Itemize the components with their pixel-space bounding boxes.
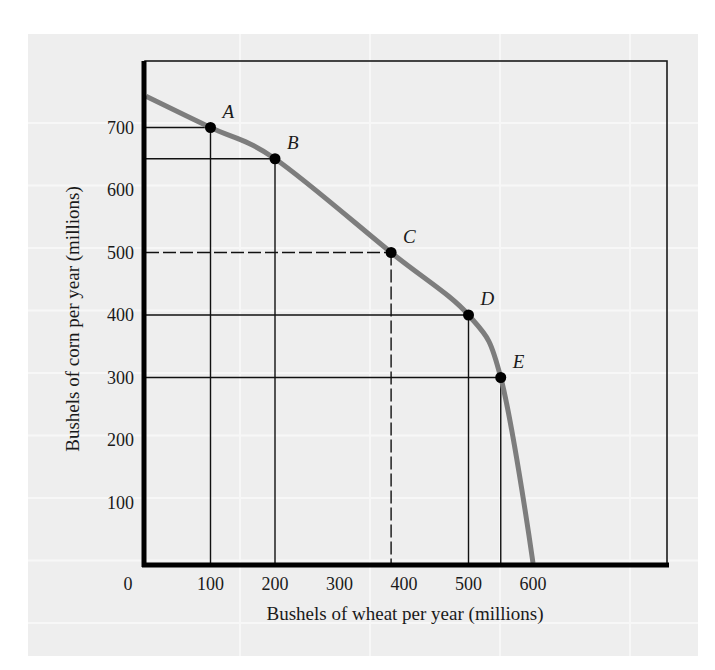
x-tick-400: 400 [391, 574, 418, 594]
x-tick-0: 0 [124, 574, 133, 594]
y-axis-title: Bushels of corn per year (millions) [62, 186, 84, 451]
point-c [386, 247, 397, 258]
y-tick-100: 100 [107, 493, 134, 513]
y-tick-600: 600 [107, 180, 134, 200]
ppf-figure: ABCDE 0100200300400500600 10020030040050… [0, 0, 715, 670]
point-e [495, 372, 506, 383]
y-tick-200: 200 [107, 430, 134, 450]
x-tick-600: 600 [520, 574, 547, 594]
y-tick-500: 500 [107, 243, 134, 263]
x-axis-title: Bushels of wheat per year (millions) [266, 603, 543, 625]
point-d [463, 310, 474, 321]
point-label-c: C [403, 226, 416, 247]
x-tick-200: 200 [262, 574, 289, 594]
x-tick-100: 100 [197, 574, 224, 594]
x-tick-500: 500 [455, 574, 482, 594]
point-label-e: E [512, 351, 525, 372]
point-a [205, 122, 216, 133]
point-label-d: D [480, 288, 495, 309]
chart-canvas: ABCDE 0100200300400500600 10020030040050… [0, 0, 715, 670]
y-tick-400: 400 [107, 305, 134, 325]
y-tick-700: 700 [107, 118, 134, 138]
point-b [270, 153, 281, 164]
x-tick-300: 300 [326, 574, 353, 594]
point-label-a: A [221, 101, 235, 122]
point-label-b: B [287, 132, 299, 153]
y-tick-300: 300 [107, 368, 134, 388]
